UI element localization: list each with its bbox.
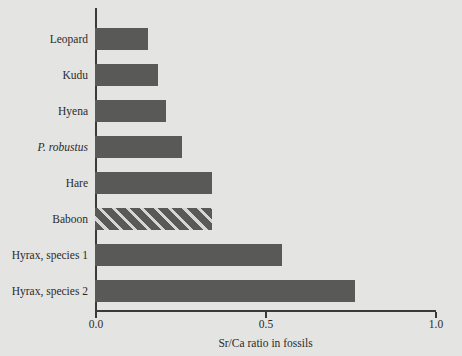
bar bbox=[95, 136, 182, 158]
category-label: P. robustus bbox=[0, 136, 88, 158]
bar bbox=[95, 172, 212, 194]
category-label: Hyrax, species 2 bbox=[0, 280, 88, 302]
bar bbox=[95, 100, 166, 122]
x-axis-tick-label: 1.0 bbox=[414, 318, 458, 330]
x-axis-title: Sr/Ca ratio in fossils bbox=[95, 337, 436, 349]
x-axis-tick-label: 0.0 bbox=[74, 318, 118, 330]
category-label: Kudu bbox=[0, 64, 88, 86]
bar bbox=[95, 280, 355, 302]
category-label: Leopard bbox=[0, 28, 88, 50]
x-axis-tick-label: 0.5 bbox=[244, 318, 288, 330]
category-label: Baboon bbox=[0, 208, 88, 230]
category-label: Hare bbox=[0, 172, 88, 194]
bar bbox=[95, 28, 148, 50]
bar bbox=[95, 208, 212, 230]
category-label: Hyrax, species 1 bbox=[0, 244, 88, 266]
bar-chart-figure: LeopardKuduHyenaP. robustusHareBaboonHyr… bbox=[0, 0, 462, 356]
bar bbox=[95, 244, 282, 266]
bar bbox=[95, 64, 158, 86]
category-label: Hyena bbox=[0, 100, 88, 122]
